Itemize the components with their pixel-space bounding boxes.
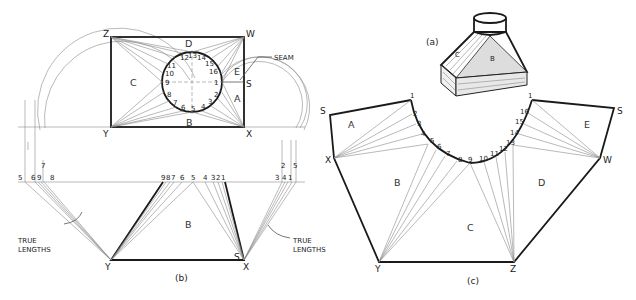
svg-text:3: 3	[211, 174, 215, 182]
face-e: E	[234, 66, 240, 77]
dev-corner-s-left: S	[320, 106, 326, 116]
svg-text:4: 4	[201, 103, 206, 111]
svg-text:1: 1	[410, 92, 414, 100]
caption-a: (a)	[426, 37, 439, 47]
dev-corner-w: W	[603, 155, 612, 165]
caption-b: (b)	[175, 273, 188, 283]
svg-text:4: 4	[421, 130, 426, 138]
svg-text:5: 5	[18, 174, 22, 182]
face-b: B	[186, 117, 193, 128]
seam-label: SEAM	[274, 54, 294, 62]
svg-text:2: 2	[216, 174, 220, 182]
svg-text:11: 11	[490, 150, 499, 158]
dev-corner-z: Z	[510, 264, 516, 274]
svg-text:1: 1	[528, 92, 532, 100]
svg-text:9: 9	[468, 156, 472, 164]
svg-text:7: 7	[41, 162, 45, 170]
corner-s: S	[246, 79, 252, 89]
svg-text:5: 5	[430, 137, 434, 145]
svg-text:7: 7	[446, 150, 450, 158]
dev-face-d: D	[538, 177, 545, 188]
pictorial-face-c: C	[455, 51, 460, 59]
true-lengths-right-2: LENGTHS	[293, 246, 326, 254]
svg-text:1: 1	[214, 79, 218, 87]
svg-text:3: 3	[208, 98, 212, 106]
svg-text:2: 2	[413, 110, 417, 118]
svg-text:5: 5	[191, 105, 195, 113]
svg-text:6: 6	[437, 143, 442, 151]
pictorial-view: C B (a)	[426, 13, 527, 96]
svg-text:4: 4	[203, 174, 208, 182]
dev-face-b: B	[394, 177, 401, 188]
face-b-tl: B	[185, 219, 192, 230]
svg-text:16: 16	[209, 68, 218, 76]
svg-text:1: 1	[221, 174, 225, 182]
dev-face-c: C	[467, 222, 474, 233]
svg-text:3: 3	[275, 174, 279, 182]
arc-point-labels: 1 2 3 4 5 6 7 8 9 10 11 12 13 14 15 16 1	[410, 92, 532, 164]
svg-text:15: 15	[515, 118, 524, 126]
face-a: A	[234, 93, 241, 104]
dev-face-e: E	[584, 119, 590, 130]
dev-face-a: A	[348, 119, 355, 130]
svg-text:9: 9	[161, 174, 165, 182]
svg-text:8: 8	[166, 174, 170, 182]
svg-text:2: 2	[214, 91, 218, 99]
corner-w: W	[246, 29, 255, 39]
svg-text:8: 8	[458, 156, 462, 164]
face-c: C	[130, 77, 137, 88]
corner-z: Z	[103, 29, 109, 39]
svg-text:15: 15	[205, 60, 214, 68]
svg-text:10: 10	[479, 155, 488, 163]
dev-corner-x: X	[325, 155, 331, 165]
svg-text:1: 1	[288, 174, 292, 182]
transition-piece-drawing: Z W Y X S D C B A E SEAM 1 2 3 4 5 6 7 8…	[0, 0, 636, 300]
svg-text:8: 8	[50, 174, 54, 182]
dev-corner-s-right: S	[617, 106, 623, 116]
svg-text:2: 2	[281, 162, 285, 170]
svg-text:3: 3	[417, 120, 421, 128]
face-d: D	[185, 38, 192, 49]
svg-text:13: 13	[188, 52, 197, 60]
svg-text:4: 4	[282, 174, 287, 182]
svg-text:5: 5	[293, 162, 297, 170]
development-view: S S X W Y Z A B C D E 1 2 3 4 5 6 7 8 9 …	[320, 92, 623, 286]
caption-c: (c)	[467, 276, 479, 286]
svg-text:14: 14	[510, 129, 519, 137]
true-length-diagrams: TRUE LENGTHS TRUE LENGTHS 5 6 9 8 7 9 8 …	[17, 162, 326, 283]
svg-text:6: 6	[181, 104, 186, 112]
svg-text:11: 11	[167, 62, 176, 70]
true-lengths-left-1: TRUE	[17, 237, 37, 245]
tl-corner-x: X	[243, 262, 249, 272]
corner-y: Y	[102, 129, 109, 139]
svg-text:7: 7	[171, 174, 175, 182]
corner-x: X	[246, 129, 252, 139]
true-lengths-left-2: LENGTHS	[18, 246, 51, 254]
svg-text:7: 7	[173, 99, 177, 107]
svg-text:13: 13	[506, 139, 515, 147]
svg-text:8: 8	[167, 91, 171, 99]
svg-text:9: 9	[165, 79, 169, 87]
top-view: Z W Y X S D C B A E SEAM 1 2 3 4 5 6 7 8…	[18, 28, 310, 182]
svg-text:5: 5	[191, 174, 195, 182]
pictorial-face-b: B	[490, 55, 495, 63]
svg-text:9: 9	[37, 174, 41, 182]
tl-corner-s: S	[234, 252, 240, 262]
svg-text:6: 6	[180, 174, 185, 182]
svg-text:6: 6	[31, 174, 36, 182]
svg-text:10: 10	[165, 70, 174, 78]
true-lengths-right-1: TRUE	[292, 237, 312, 245]
dev-corner-y: Y	[374, 264, 381, 274]
tl-corner-y: Y	[104, 262, 111, 272]
svg-text:16: 16	[520, 108, 529, 116]
